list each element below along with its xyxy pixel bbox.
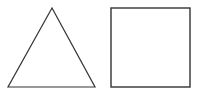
shapes-diagram [0, 0, 197, 93]
square-shape [111, 8, 190, 87]
triangle-shape [8, 8, 95, 87]
